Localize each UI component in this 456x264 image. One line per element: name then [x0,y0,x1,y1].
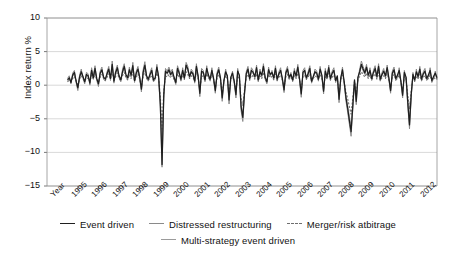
series-line [68,66,437,155]
chart-figure: Index return % Event driven Distressed r… [0,0,456,264]
y-axis-tick-label: −15 [14,180,40,190]
y-axis-tick-label: 5 [14,46,40,56]
legend-item-distressed-restructuring: Distressed restructuring [149,219,272,230]
legend-item-multi-strategy-event-driven: Multi-strategy event driven [161,235,295,246]
y-axis-tick-label: −5 [14,113,40,123]
legend-label: Distressed restructuring [169,219,272,230]
chart-legend: Event driven Distressed restructuring Me… [0,216,456,248]
legend-label: Merger/risk atbitrage [307,219,396,230]
legend-swatch-solid-dark-icon [60,223,75,225]
legend-row-1: Event driven Distressed restructuring Me… [0,216,456,232]
legend-item-event-driven: Event driven [60,219,134,230]
series-line [68,71,437,129]
legend-swatch-solid-mid-icon [149,223,164,225]
legend-label: Event driven [80,219,134,230]
y-axis-tick-label: 0 [14,79,40,89]
legend-swatch-solid-grey-icon [161,239,176,241]
legend-swatch-dashed-icon [287,223,302,225]
legend-item-merger-risk-arbitrage: Merger/risk atbitrage [287,219,396,230]
y-axis-tick-label: −10 [14,146,40,156]
legend-label: Multi-strategy event driven [181,235,295,246]
y-axis-tick-label: 10 [14,12,40,22]
legend-row-2: Multi-strategy event driven [0,232,456,248]
